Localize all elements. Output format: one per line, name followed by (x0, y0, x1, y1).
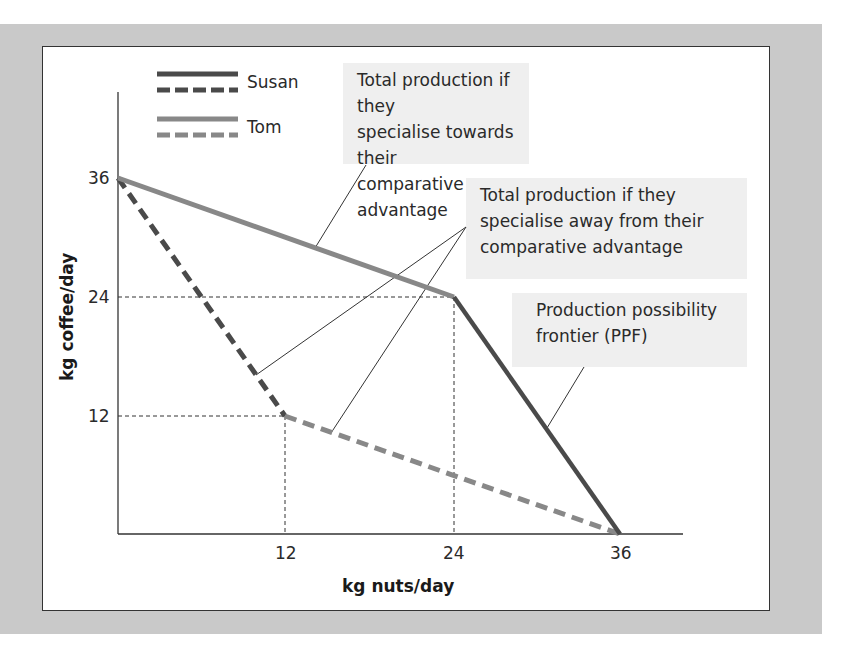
x-axis-title: kg nuts/day (342, 576, 454, 596)
y-axis-title: kg coffee/day (57, 253, 77, 381)
legend-label-tom: Tom (247, 117, 281, 137)
series-tom-solid (118, 178, 454, 297)
series-susan-solid (454, 297, 620, 534)
chart-plot (0, 0, 859, 658)
y-tick-36: 36 (88, 168, 110, 188)
leader-away-1 (256, 227, 466, 375)
series-tom-dashed (285, 416, 620, 534)
leader-towards (315, 165, 366, 248)
legend-label-susan: Susan (247, 72, 299, 92)
y-tick-24: 24 (88, 287, 110, 307)
x-tick-36: 36 (610, 543, 632, 563)
x-tick-24: 24 (443, 543, 465, 563)
leader-away-2 (331, 227, 466, 433)
leader-ppf (547, 367, 584, 428)
y-tick-12: 12 (88, 406, 110, 426)
x-tick-12: 12 (275, 543, 297, 563)
